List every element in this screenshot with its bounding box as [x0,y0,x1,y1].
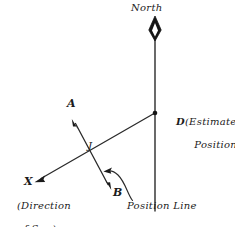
label-point-d: D [176,116,185,127]
label-point-x: X [24,176,33,188]
position-line-segment [76,124,109,185]
compass-needle-icon [149,16,161,41]
label-direction-of-sun: (Direction of Sun) [2,189,72,227]
label-north: North [131,2,163,13]
point-d-marker [153,111,158,116]
arrow-head-x-icon [35,176,46,183]
navigation-diagram-figure: North A J B X D(Estimated Position) (Dir… [0,0,235,227]
label-point-b: B [113,187,123,199]
label-estimated-line1: (Estimated [185,116,235,127]
label-point-j: J [88,140,92,151]
label-position-line: Position Line [127,200,197,211]
label-estimated-position: D(Estimated Position) [162,105,235,172]
label-estimated-line2: Position) [162,139,235,150]
label-sun-line2: of Sun) [2,223,72,227]
label-sun-line1: (Direction [17,200,71,211]
sun-direction-ray [41,114,154,179]
arrow-head-a-icon [72,119,79,130]
label-point-a: A [67,98,76,110]
